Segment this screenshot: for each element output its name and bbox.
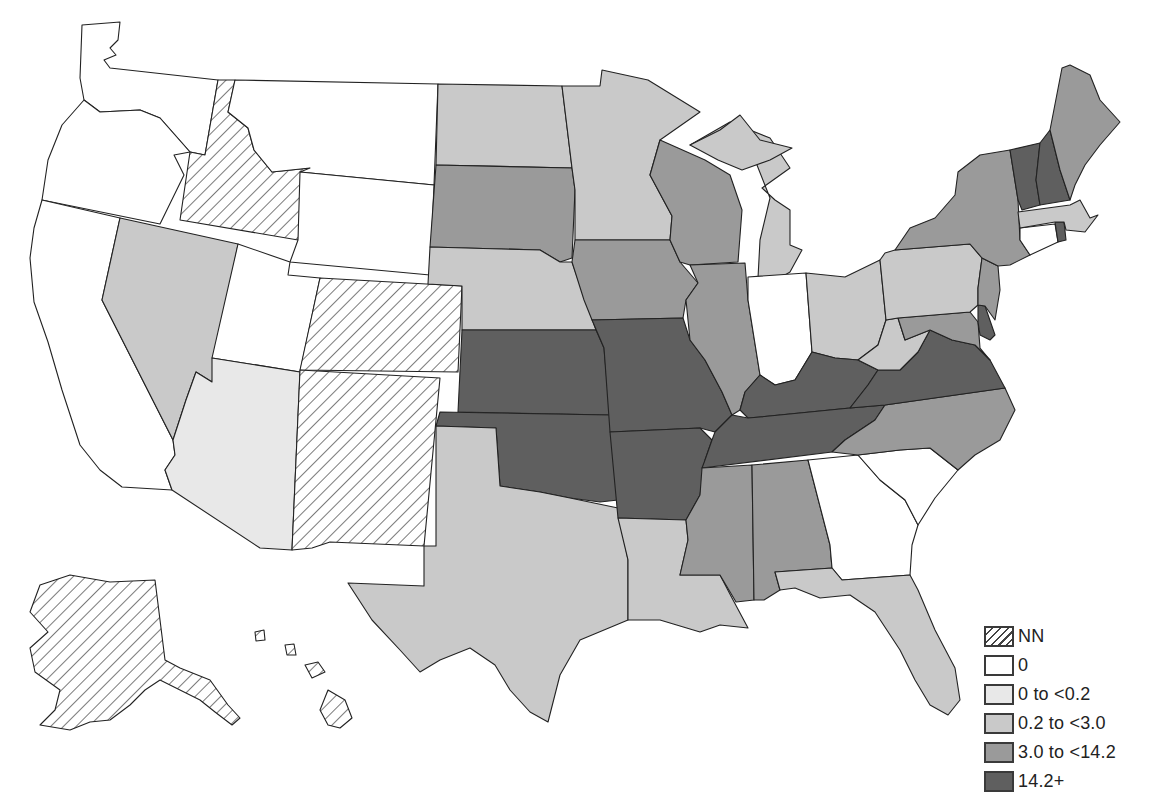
legend-label: 14.2+ (1018, 771, 1065, 792)
state-florida (775, 568, 960, 715)
state-alaska (30, 575, 240, 730)
state-hawaii-kauai (255, 630, 265, 641)
legend-swatch (984, 742, 1014, 763)
legend-swatch (984, 626, 1014, 647)
us-choropleth-map (0, 0, 1155, 805)
legend-label: NN (1018, 626, 1044, 647)
legend-swatch (984, 655, 1014, 676)
state-new-mexico (292, 370, 440, 550)
legend-label: 3.0 to <14.2 (1018, 742, 1116, 763)
legend-swatch (984, 771, 1014, 792)
legend-item-zero: 0 (984, 651, 1116, 680)
legend-item-3.0-to-14.2: 3.0 to <14.2 (984, 738, 1116, 767)
legend-item-14.2-plus: 14.2+ (984, 767, 1116, 796)
state-hawaii-big-island (320, 690, 352, 728)
state-north-dakota (436, 84, 572, 168)
legend-swatch (984, 684, 1014, 705)
legend-label: 0.2 to <3.0 (1018, 713, 1106, 734)
state-colorado (300, 278, 462, 372)
map-legend: NN 0 0 to <0.2 0.2 to <3.0 3.0 to <14.2 … (984, 622, 1116, 796)
state-wyoming (290, 172, 434, 275)
legend-item-0.2-to-3.0: 0.2 to <3.0 (984, 709, 1116, 738)
state-hawaii-oahu (285, 644, 296, 655)
legend-label: 0 (1018, 655, 1028, 676)
legend-item-0-to-0.2: 0 to <0.2 (984, 680, 1116, 709)
legend-label: 0 to <0.2 (1018, 684, 1090, 705)
state-pennsylvania (880, 244, 982, 320)
state-ohio (806, 260, 886, 360)
state-kansas (458, 330, 610, 415)
legend-swatch (984, 713, 1014, 734)
legend-item-nn: NN (984, 622, 1116, 651)
state-hawaii-maui (305, 662, 325, 678)
